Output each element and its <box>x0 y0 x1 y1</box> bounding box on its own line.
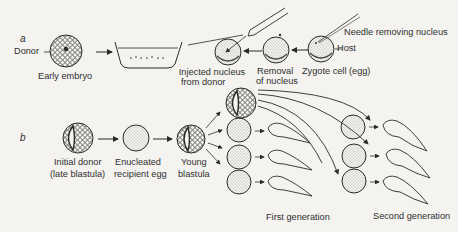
blastula-label: blastula <box>178 169 210 180</box>
first-gen-blastula-icon <box>226 88 256 118</box>
initial-donor-label: Initial donor <box>54 157 102 168</box>
zygote-label: Zygote cell (egg) <box>302 66 370 77</box>
pipette-icon <box>248 8 288 36</box>
recipient-egg-icon <box>123 125 149 151</box>
late-blastula-icon <box>63 123 93 153</box>
early-embryo-label: Early embryo <box>38 71 92 82</box>
first-generation-label: First generation <box>266 212 330 223</box>
tadpole-icon <box>383 176 428 204</box>
petri-dish-icon <box>115 42 182 68</box>
injected-egg-icon <box>215 39 241 65</box>
tadpole-icon <box>268 176 312 196</box>
tadpole-icon <box>268 123 310 143</box>
host-label: Host <box>337 43 356 54</box>
needle-label: Needle removing nucleus <box>344 27 448 38</box>
tadpole-icon <box>386 149 430 178</box>
nuclear-transplantation-diagram: a Donor Early embryo Injected nucleus fr… <box>0 0 458 232</box>
tadpole-icon <box>268 150 312 170</box>
donor-label: Donor <box>14 46 39 57</box>
enucleated-label: Enucleated <box>115 157 161 168</box>
of-nucleus-label: of nucleus <box>256 76 298 87</box>
panel-b-letter: b <box>20 132 26 143</box>
second-generation-label: Second generation <box>373 211 450 222</box>
tadpole-icon <box>383 120 427 151</box>
young-blastula-icon <box>177 125 205 153</box>
second-gen-row <box>341 115 430 204</box>
recipient-egg-label: recipient egg <box>114 169 167 180</box>
late-blastula-label: (late blastula) <box>50 169 105 180</box>
from-donor-label: from donor <box>181 77 225 88</box>
panel-a-letter: a <box>20 33 26 44</box>
young-label: Young <box>181 157 207 168</box>
early-embryo-icon <box>50 35 82 67</box>
enucleated-egg-icon <box>263 34 289 63</box>
